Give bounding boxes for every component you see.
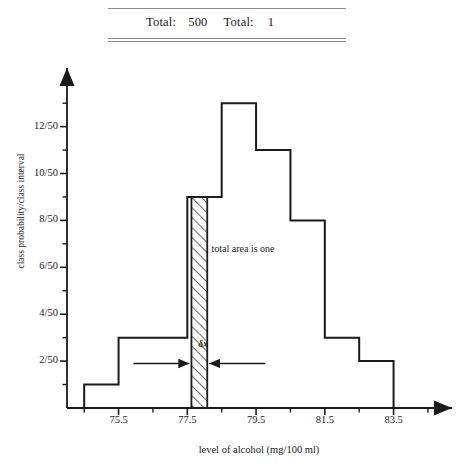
- table-row: Total: 500 Total: 1: [108, 9, 346, 36]
- y-tick-label: 10/50: [14, 167, 58, 178]
- table-rule-double: [108, 38, 346, 42]
- y-tick-label: 2/50: [14, 354, 58, 365]
- delta-x-annotation: δx: [198, 339, 208, 349]
- total-value-1: 500: [188, 15, 207, 30]
- total-label-2: Total:: [224, 15, 254, 30]
- total-label-1: Total:: [146, 15, 176, 30]
- plot-area: [0, 56, 466, 464]
- x-tick-label: 77.5: [164, 414, 210, 425]
- histogram-chart: class probability/class interval level o…: [0, 56, 466, 464]
- axis-ticks: [60, 103, 428, 415]
- axis-lines: [67, 68, 452, 408]
- x-tick-label: 79.5: [233, 414, 279, 425]
- table-totals-fragment: Total: 500 Total: 1: [108, 8, 346, 42]
- y-tick-label: 6/50: [14, 260, 58, 271]
- x-tick-label: 75.5: [96, 414, 142, 425]
- y-tick-label: 8/50: [14, 213, 58, 224]
- x-tick-label: 81.5: [302, 414, 348, 425]
- total-area-annotation: total area is one: [212, 243, 275, 254]
- x-tick-label: 83.5: [371, 414, 417, 425]
- delta-x-strip: [191, 197, 207, 408]
- delta-x-strip-hatch: [191, 197, 207, 408]
- histogram-step-path: [84, 103, 393, 408]
- total-value-2: 1: [268, 15, 274, 30]
- histogram-outline: [84, 103, 393, 408]
- y-tick-label: 12/50: [14, 120, 58, 131]
- y-tick-label: 4/50: [14, 307, 58, 318]
